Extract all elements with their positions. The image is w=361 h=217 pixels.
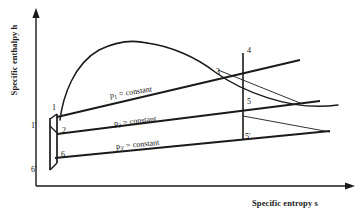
y-axis-arrowhead: [32, 8, 39, 18]
saturated-liquid-curve: [60, 41, 147, 120]
state-point-label-5prime: 5': [245, 133, 250, 141]
x-axis-label: Specific entropy s: [252, 198, 318, 208]
isobar-p3prime-subscript: 3': [120, 145, 125, 151]
state-point-label-5: 5: [247, 98, 251, 106]
isobar-p3-subscript: 3: [118, 122, 122, 128]
left-vertical-group: [50, 114, 57, 170]
tie-line-6prime-6: [50, 163, 57, 170]
x-axis-arrowhead: [345, 182, 355, 189]
y-axis-label: Specific enthalpy h: [9, 12, 19, 108]
isobar-p3-line: [57, 101, 320, 134]
saturation-dome-group: [60, 41, 338, 120]
axes-group: [32, 8, 355, 190]
state-point-label-1prime: 1': [31, 122, 36, 130]
isobar-p3prime-line: [55, 131, 330, 158]
state-point-label-3: 3: [216, 68, 220, 76]
expansion-line-3-to-vapour: [218, 70, 300, 103]
tie-line-1prime-2: [50, 126, 57, 133]
isobar-p3-group: [57, 101, 320, 134]
state-point-label-1: 1: [52, 104, 56, 112]
state-point-label-6prime: 6': [31, 166, 36, 174]
state-point-label-2: 2: [62, 127, 66, 135]
tie-line-1prime-1: [50, 114, 57, 119]
isobar-p1-equals: =: [118, 89, 124, 99]
isobar-p3prime-group: [55, 131, 330, 158]
isobar-p1-subscript: 1: [114, 94, 118, 100]
isobar-p3prime-equals: =: [126, 141, 132, 150]
state-point-label-6: 6: [61, 151, 65, 159]
expansion-line-5-to-right: [243, 116, 330, 132]
isobar-p3-equals: =: [122, 117, 128, 126]
state-point-label-4: 4: [247, 47, 251, 55]
hs-diagram-figure: Specific enthalpy h Specific entropy s p…: [0, 0, 361, 217]
